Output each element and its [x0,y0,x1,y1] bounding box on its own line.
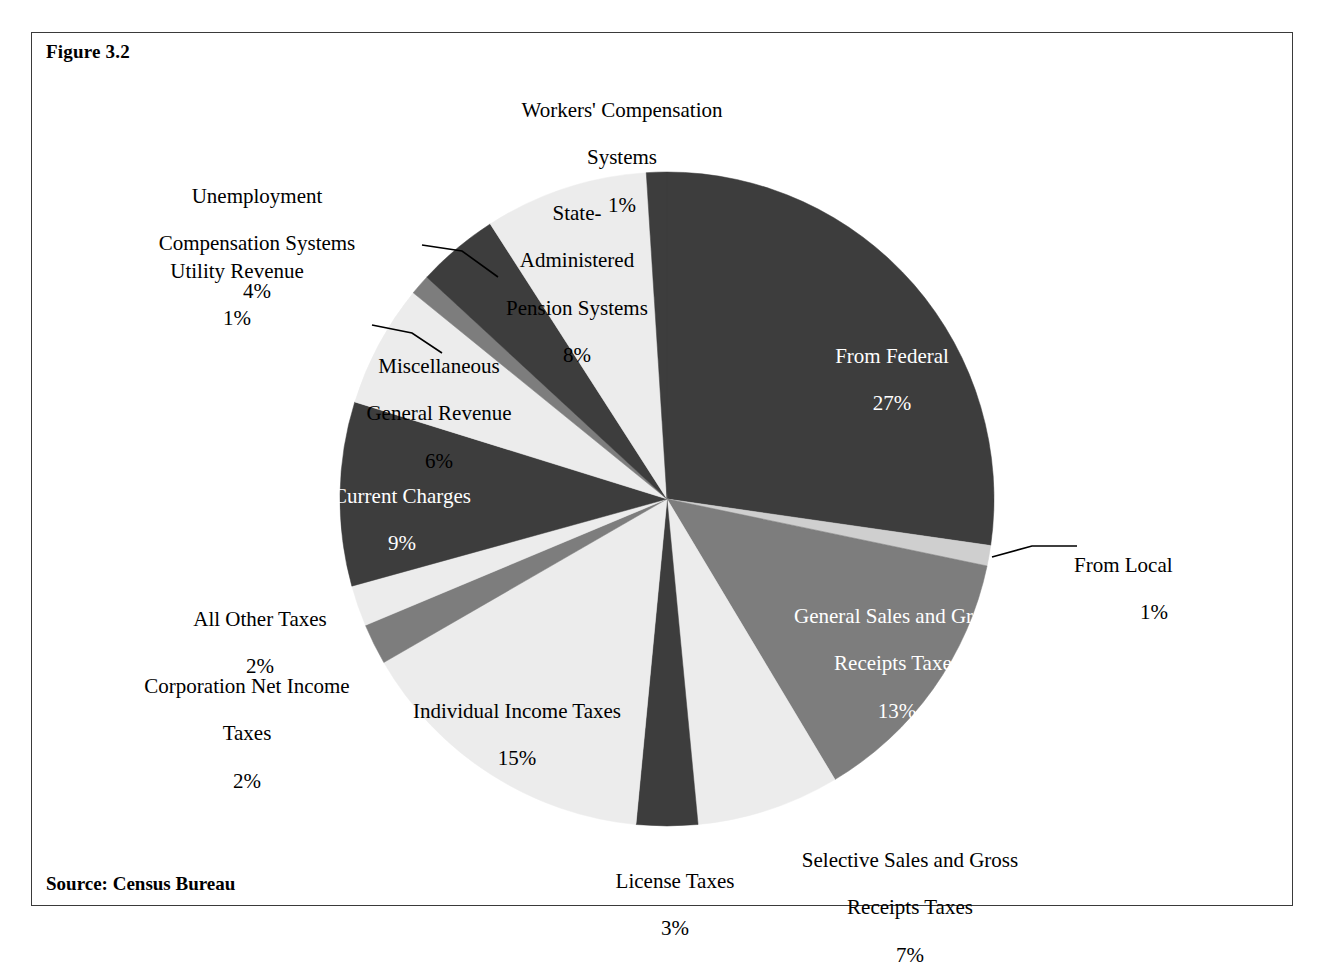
pie-slice [667,172,994,546]
source-label: Source: Census Bureau [46,873,235,895]
pie-slices-svg [32,33,1294,907]
pie-chart: Workers' Compensation Systems 1% State- … [32,33,1294,907]
figure-panel: Figure 3.2 Workers' Compensation Systems… [31,32,1293,906]
leader-line-from-local [992,546,1077,557]
pie-slice-group [340,172,994,826]
